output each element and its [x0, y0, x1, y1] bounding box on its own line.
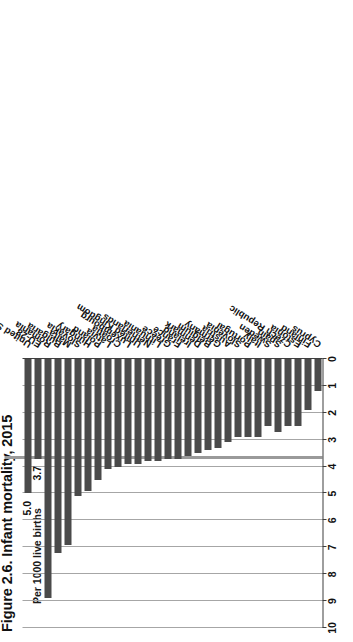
bar-belgium: [204, 359, 211, 450]
tick-label-3: 3: [325, 437, 337, 443]
tick-label-7: 7: [325, 544, 337, 550]
bar-cyprus: [314, 359, 321, 391]
bar-eu-28: [34, 359, 41, 459]
tick-mark-10: [322, 627, 326, 628]
tick-mark-6: [322, 519, 326, 520]
bar-row: [134, 359, 141, 628]
bar-row: [124, 359, 131, 628]
bar-hungary: [84, 359, 91, 491]
bar-row: [144, 359, 151, 628]
value-label: 3.7: [30, 466, 42, 481]
bar-croatia: [114, 359, 121, 467]
tick-mark-9: [322, 600, 326, 601]
bar-luxembourg: [124, 359, 131, 464]
bar-row: [74, 359, 81, 628]
infant-mortality-figure: Figure 2.6. Infant mortality, 2015 Per 1…: [0, 0, 353, 642]
figure-title: Figure 2.6. Infant mortality, 2015: [0, 415, 14, 632]
bar-finland: [304, 359, 311, 410]
tick-mark-4: [322, 466, 326, 467]
tick-label-8: 8: [325, 571, 337, 577]
bar-netherlands: [144, 359, 151, 461]
bar-denmark: [194, 359, 201, 453]
bar-ireland: [184, 359, 191, 456]
bar-row: [94, 359, 101, 628]
bar-row: [214, 359, 221, 628]
value-label: 5.0: [20, 501, 32, 516]
bar-series: [22, 359, 322, 628]
bar-row: [294, 359, 301, 628]
bar-row: [114, 359, 121, 628]
tick-label-6: 6: [325, 517, 337, 523]
tick-mark-7: [322, 546, 326, 547]
bar-slovenia: [234, 359, 241, 437]
bar-row: [254, 359, 261, 628]
bar-sweden: [264, 359, 271, 426]
rotated-figure-canvas: Figure 2.6. Infant mortality, 2015 Per 1…: [0, 0, 353, 642]
bar-row: [174, 359, 181, 628]
tick-label-10: 10: [325, 622, 337, 634]
bar-row: [234, 359, 241, 628]
bar-row: [304, 359, 311, 628]
tick-mark-5: [322, 493, 326, 494]
plot-area: United States *EU-28RomaniaBulgariaMalta…: [22, 359, 322, 628]
tick-label-9: 9: [325, 598, 337, 604]
bar-row: [284, 359, 291, 628]
bar-row: [224, 359, 231, 628]
bar-row: [164, 359, 171, 628]
tick-mark-2: [322, 412, 326, 413]
bar-greece: [164, 359, 171, 459]
bar-row: [104, 359, 111, 628]
bar-latvia: [104, 359, 111, 469]
bar-portugal: [244, 359, 251, 437]
bar-row: [314, 359, 321, 628]
tick-mark-3: [322, 439, 326, 440]
tick-mark-1: [322, 385, 326, 386]
bar-row: [194, 359, 201, 628]
tick-label-0: 0: [325, 356, 337, 362]
tick-label-5: 5: [325, 491, 337, 497]
bar-austria: [224, 359, 231, 442]
bar-france: [174, 359, 181, 459]
bar-row: [274, 359, 281, 628]
bar-row: [24, 359, 31, 628]
bar-poland: [94, 359, 101, 480]
bar-spain: [274, 359, 281, 432]
bar-lithuania: [154, 359, 161, 461]
bar-row: [264, 359, 271, 628]
bar-row: [244, 359, 251, 628]
bar-slovakia: [74, 359, 81, 496]
bar-row: [204, 359, 211, 628]
bar-czech-republic: [284, 359, 291, 426]
bar-row: [64, 359, 71, 628]
bar-estonia: [294, 359, 301, 426]
bar-row: [54, 359, 61, 628]
bar-row: [184, 359, 191, 628]
tick-mark-0: [322, 358, 326, 359]
tick-mark-8: [322, 573, 326, 574]
bar-italy: [254, 359, 261, 437]
bar-bulgaria: [54, 359, 61, 553]
bar-row: [34, 359, 41, 628]
tick-label-4: 4: [325, 464, 337, 470]
bar-germany: [214, 359, 221, 448]
tick-label-1: 1: [325, 383, 337, 389]
bar-united-kingdom: [134, 359, 141, 464]
tick-label-2: 2: [325, 410, 337, 416]
bar-romania: [44, 359, 51, 598]
bar-row: [154, 359, 161, 628]
bar-row: [84, 359, 91, 628]
bar-row: [44, 359, 51, 628]
bar-malta: [64, 359, 71, 545]
